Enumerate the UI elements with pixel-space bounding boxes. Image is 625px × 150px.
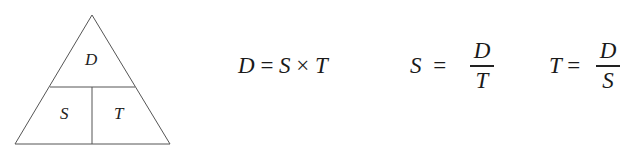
triangle-label-distance: D — [85, 50, 97, 70]
eq3-denominator: S — [596, 68, 620, 94]
eq2-numerator: D — [470, 38, 494, 64]
eq3-numerator: D — [596, 38, 620, 64]
dst-triangle — [0, 0, 200, 150]
equation-speed-lhs: S = — [410, 53, 446, 79]
triangle-label-speed: S — [60, 104, 69, 124]
fraction-bar — [596, 65, 620, 67]
eq2-equals: = — [433, 53, 446, 78]
equation-distance: D = S × T — [238, 53, 328, 79]
equation-time-lhs: T = — [549, 53, 580, 79]
equation-time-fraction: D S — [596, 38, 620, 94]
eq2-lhs: S — [410, 53, 422, 78]
triangle-label-time: T — [114, 104, 123, 124]
eq1-lhs: D — [238, 53, 255, 78]
fraction-bar — [470, 65, 494, 67]
eq3-lhs: T — [549, 53, 561, 78]
equation-speed-fraction: D T — [470, 38, 494, 94]
eq1-equals: = — [260, 53, 273, 78]
eq2-denominator: T — [470, 68, 494, 94]
eq1-times: × — [296, 53, 309, 78]
eq1-a: S — [279, 53, 291, 78]
eq1-b: T — [315, 53, 328, 78]
eq3-equals: = — [567, 53, 580, 78]
